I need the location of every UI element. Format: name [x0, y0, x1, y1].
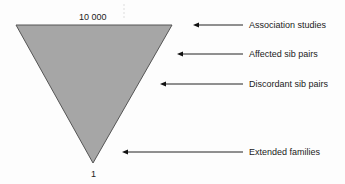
label-association-studies: Association studies: [249, 20, 326, 30]
arrow-affected-sib-pairs: [177, 52, 243, 57]
arrow-association-studies: [193, 23, 243, 28]
top-value-label: 10 000: [79, 12, 107, 22]
arrow-extended-families: [122, 150, 243, 155]
diagram-canvas: 10 000 1 Association studies Affected si…: [0, 0, 345, 184]
arrow-discordant-sib-pairs: [160, 82, 243, 87]
label-discordant-sib-pairs: Discordant sib pairs: [249, 79, 328, 89]
label-affected-sib-pairs: Affected sib pairs: [249, 49, 318, 59]
bottom-value-label: 1: [91, 169, 96, 179]
inverted-triangle: [16, 25, 172, 163]
label-extended-families: Extended families: [249, 147, 320, 157]
